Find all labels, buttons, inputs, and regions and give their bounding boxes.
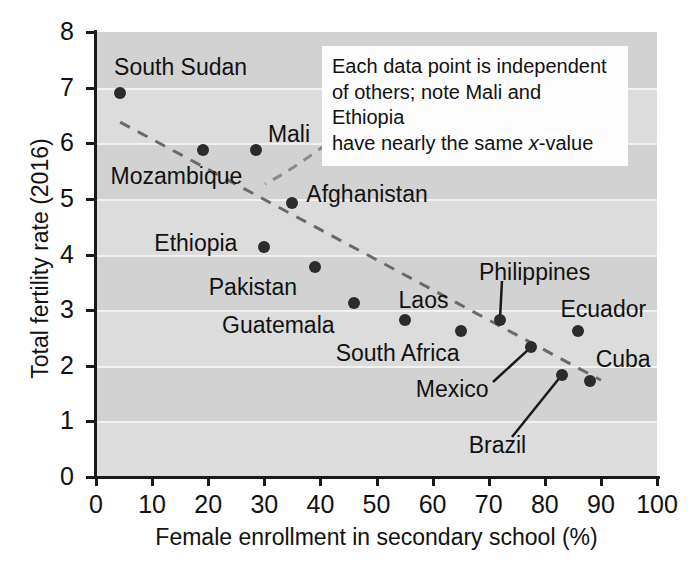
data-point-mali[interactable] — [250, 144, 262, 156]
point-label-pakistan: Pakistan — [209, 276, 297, 299]
y-tick-label: 8 — [44, 19, 74, 44]
x-tick-label: 10 — [138, 492, 166, 517]
data-point-philippines[interactable] — [494, 314, 506, 326]
y-tick — [86, 198, 95, 201]
data-point-pakistan[interactable] — [309, 261, 321, 273]
scatter-plot-figure: 012345678 0102030405060708090100 Total f… — [0, 0, 696, 569]
y-tick — [86, 254, 95, 257]
x-tick-label: 20 — [194, 492, 222, 517]
x-axis-title: Female enrollment in secondary school (%… — [96, 524, 657, 551]
data-point-guatemala[interactable] — [348, 297, 360, 309]
x-tick-label: 90 — [587, 492, 615, 517]
point-label-mali: Mali — [268, 123, 310, 146]
x-tick — [207, 477, 210, 486]
annotation-line-3-post: -value — [539, 132, 593, 154]
point-label-ethiopia: Ethiopia — [154, 232, 237, 255]
x-tick — [376, 477, 379, 486]
point-label-guatemala: Guatemala — [222, 314, 335, 337]
x-tick — [488, 477, 491, 486]
point-label-mozambique: Mozambique — [111, 165, 243, 188]
data-point-ethiopia[interactable] — [258, 241, 270, 253]
data-point-brazil[interactable] — [556, 369, 568, 381]
x-tick — [432, 477, 435, 486]
gridline — [96, 366, 657, 368]
annotation-line-2: of others; note Mali and Ethiopia — [332, 80, 618, 131]
data-point-ecuador[interactable] — [572, 325, 584, 337]
data-point-laos[interactable] — [399, 314, 411, 326]
x-tick — [600, 477, 603, 486]
y-tick — [86, 309, 95, 312]
y-axis-title: Total fertility rate (2016) — [27, 69, 54, 449]
y-tick — [86, 142, 95, 145]
x-tick-label: 100 — [636, 492, 678, 517]
x-tick-label: 40 — [306, 492, 334, 517]
x-tick-label: 80 — [531, 492, 559, 517]
annotation-line-1: Each data point is independent — [332, 54, 618, 80]
x-tick — [263, 477, 266, 486]
data-point-south-sudan[interactable] — [114, 87, 126, 99]
annotation-x-variable: x — [529, 132, 539, 154]
gridline — [96, 421, 657, 423]
plot-band — [96, 421, 657, 477]
x-tick — [656, 477, 659, 486]
x-tick — [319, 477, 322, 486]
annotation-line-3: have nearly the same x-value — [332, 131, 618, 157]
x-tick-label: 70 — [475, 492, 503, 517]
x-tick-label: 60 — [419, 492, 447, 517]
x-tick — [151, 477, 154, 486]
data-point-mexico[interactable] — [525, 341, 537, 353]
point-label-brazil: Brazil — [469, 434, 527, 457]
x-tick — [95, 477, 98, 486]
y-tick — [86, 87, 95, 90]
point-label-philippines: Philippines — [479, 261, 590, 284]
y-tick — [86, 476, 95, 479]
y-tick-label: 0 — [44, 464, 74, 489]
point-label-south-africa: South Africa — [336, 342, 460, 365]
x-tick-label: 30 — [250, 492, 278, 517]
y-tick — [86, 31, 95, 34]
x-tick — [544, 477, 547, 486]
data-point-mozambique[interactable] — [197, 144, 209, 156]
point-label-mexico: Mexico — [416, 378, 489, 401]
annotation-callout: Each data point is independent of others… — [322, 46, 628, 166]
data-point-south-africa[interactable] — [455, 325, 467, 337]
point-label-ecuador: Ecuador — [560, 298, 646, 321]
point-label-cuba: Cuba — [596, 348, 651, 371]
y-tick — [86, 365, 95, 368]
data-point-afghanistan[interactable] — [286, 197, 298, 209]
y-tick — [86, 420, 95, 423]
annotation-line-3-pre: have nearly the same — [332, 132, 529, 154]
point-label-south-sudan: South Sudan — [114, 56, 247, 79]
point-label-laos: Laos — [399, 289, 449, 312]
x-tick-label: 0 — [89, 492, 103, 517]
data-point-cuba[interactable] — [584, 375, 596, 387]
x-tick-label: 50 — [363, 492, 391, 517]
point-label-afghanistan: Afghanistan — [306, 183, 427, 206]
